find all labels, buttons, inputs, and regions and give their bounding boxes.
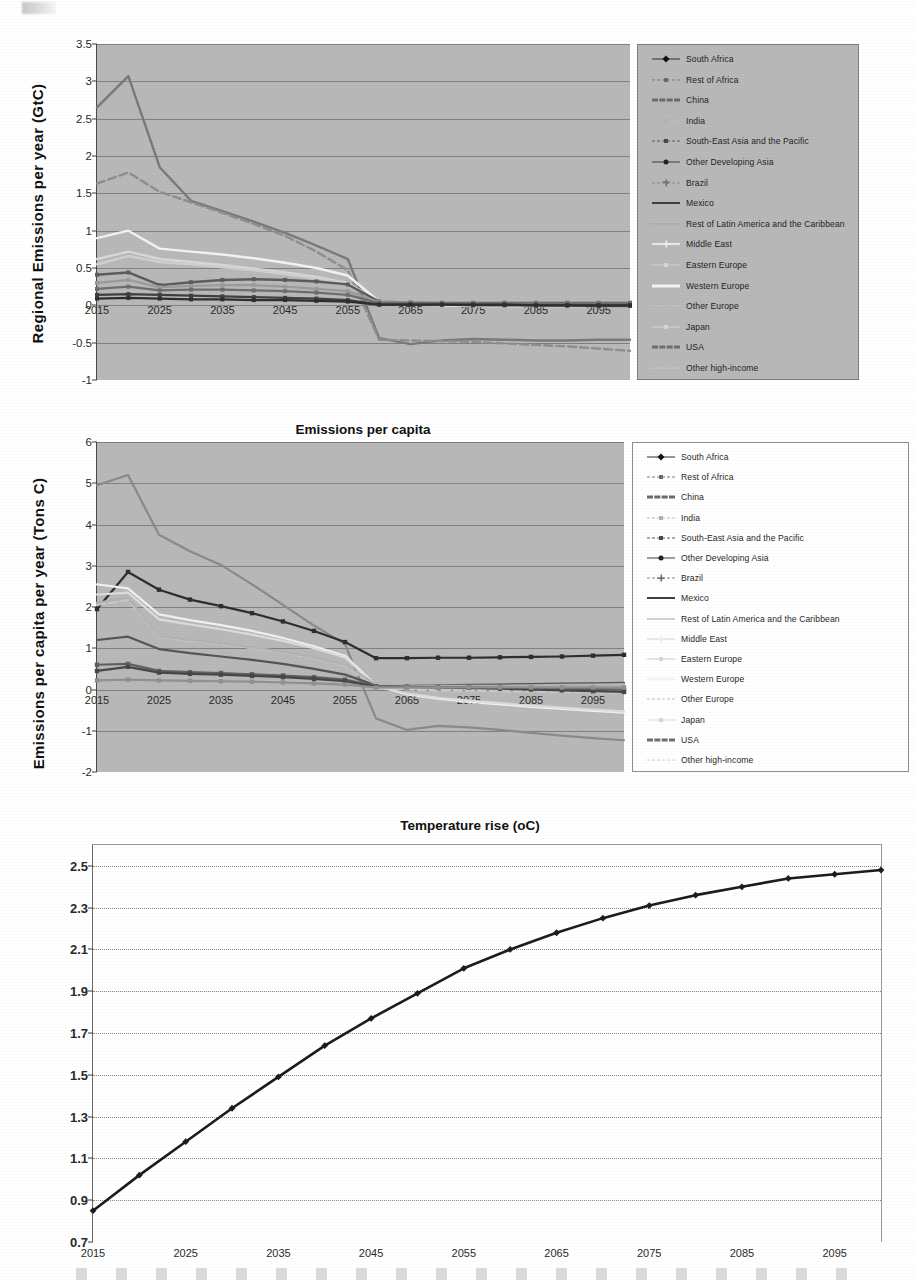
y-axis-tick-label: 2.1 (70, 942, 88, 957)
series-marker (283, 278, 287, 282)
legend-key-icon (641, 551, 681, 565)
legend-item[interactable]: Mexico (638, 195, 858, 211)
legend-item[interactable]: China (638, 92, 858, 108)
legend-item-label: Rest of Africa (681, 472, 734, 482)
legend-marker-plus-icon (658, 575, 665, 582)
legend-item[interactable]: South-East Asia and the Pacific (638, 133, 858, 149)
series-marker (189, 280, 193, 284)
series-marker (529, 655, 533, 659)
scan-artifact-top-left (22, 2, 56, 14)
series-marker (628, 303, 632, 307)
legend-item[interactable]: Other Europe (638, 298, 858, 314)
legend-item[interactable]: USA (638, 339, 858, 355)
legend-item[interactable]: Brazil (633, 570, 908, 586)
legend-line-swatch (652, 202, 680, 204)
chart1-y-axis-title: Regional Emissions per year (GtC) (29, 49, 46, 379)
legend-item[interactable]: Brazil (638, 175, 858, 191)
legend-key-icon (646, 196, 686, 210)
legend-marker-circle-icon (664, 160, 669, 165)
chart3-title: Temperature rise (oC) (60, 818, 880, 833)
legend-item[interactable]: Middle East (638, 236, 858, 252)
series-marker (219, 679, 223, 683)
legend-item[interactable]: Other high-income (638, 360, 858, 376)
series-marker (252, 283, 256, 287)
legend-item-label: Japan (686, 322, 710, 332)
legend-item-label: Other high-income (686, 363, 758, 373)
legend-item-label: Rest of Latin America and the Caribbean (686, 219, 845, 229)
series-marker (314, 287, 318, 291)
series-line (97, 584, 624, 712)
series-marker (189, 297, 193, 301)
series-marker (374, 685, 378, 689)
legend-line-swatch (652, 223, 680, 224)
y-axis-tick-label: 3.5 (76, 38, 92, 50)
legend-item[interactable]: South Africa (638, 51, 858, 67)
legend-item[interactable]: India (638, 113, 858, 129)
series-marker (220, 297, 224, 301)
legend-item[interactable]: Japan (638, 319, 858, 335)
legend-line-swatch (652, 284, 680, 287)
series-marker (157, 670, 161, 674)
legend-item[interactable]: Rest of Africa (638, 72, 858, 88)
x-axis-tick-label: 2045 (359, 1247, 383, 1259)
series-marker (188, 679, 192, 683)
legend-item[interactable]: USA (633, 732, 908, 748)
legend-item[interactable]: India (633, 510, 908, 526)
legend-item-label: Mexico (686, 198, 714, 208)
series-marker (126, 296, 130, 300)
legend-item[interactable]: Other high-income (633, 752, 908, 768)
legend-key-icon (641, 450, 681, 464)
legend-item-label: Middle East (686, 239, 732, 249)
legend-item[interactable]: Japan (633, 712, 908, 728)
chart3-plot-area: 2.52.32.11.91.71.51.31.10.90.72015202520… (92, 844, 882, 1242)
legend-key-icon (641, 531, 681, 545)
legend-item[interactable]: Other Developing Asia (638, 154, 858, 170)
legend-item[interactable]: Western Europe (638, 278, 858, 294)
series-marker (346, 282, 350, 286)
legend-item[interactable]: Other Europe (633, 691, 908, 707)
legend-item[interactable]: Eastern Europe (638, 257, 858, 273)
legend-item[interactable]: South Africa (633, 449, 908, 465)
series-marker (252, 288, 256, 292)
legend-line-swatch (647, 618, 675, 619)
legend-key-icon (646, 299, 686, 313)
legend-key-icon (641, 490, 681, 504)
series-marker (158, 297, 162, 301)
legend-item[interactable]: Western Europe (633, 671, 908, 687)
legend-item[interactable]: China (633, 489, 908, 505)
legend-item[interactable]: Eastern Europe (633, 651, 908, 667)
chart2-plot-area: 6543210-1-220152025203520452055206520752… (96, 442, 624, 772)
series-marker (597, 303, 601, 307)
series-marker (498, 685, 502, 689)
legend-item[interactable]: South-East Asia and the Pacific (633, 530, 908, 546)
series-marker (440, 303, 444, 307)
legend-item[interactable]: Mexico (633, 590, 908, 606)
legend-item[interactable]: Middle East (633, 631, 908, 647)
series-marker (467, 685, 471, 689)
series-marker (283, 298, 287, 302)
x-axis-tick-label: 2025 (173, 1247, 197, 1259)
series-line (97, 475, 624, 740)
series-marker (220, 278, 224, 282)
legend-key-icon (641, 571, 681, 585)
legend-item-label: China (686, 95, 709, 105)
legend-key-icon (646, 176, 686, 190)
series-marker (283, 289, 287, 293)
series-marker (374, 656, 378, 660)
legend-item[interactable]: Rest of Latin America and the Caribbean (633, 611, 908, 627)
series-marker (252, 298, 256, 302)
series-line (97, 637, 624, 686)
legend-item[interactable]: Rest of Africa (633, 469, 908, 485)
legend-line-swatch (647, 597, 675, 599)
series-marker (507, 946, 514, 953)
x-axis-tick-label: 2075 (637, 1247, 661, 1259)
legend-key-icon (646, 237, 686, 251)
series-marker (126, 292, 130, 296)
legend-item[interactable]: Rest of Latin America and the Caribbean (638, 216, 858, 232)
series-marker (591, 653, 595, 657)
legend-item[interactable]: Other Developing Asia (633, 550, 908, 566)
legend-key-icon (641, 652, 681, 666)
legend-item-label: Mexico (681, 593, 709, 603)
chart-temperature-rise: Temperature rise (oC) 2.52.32.11.91.71.5… (0, 810, 915, 1280)
legend-marker-square-icon (659, 516, 663, 520)
